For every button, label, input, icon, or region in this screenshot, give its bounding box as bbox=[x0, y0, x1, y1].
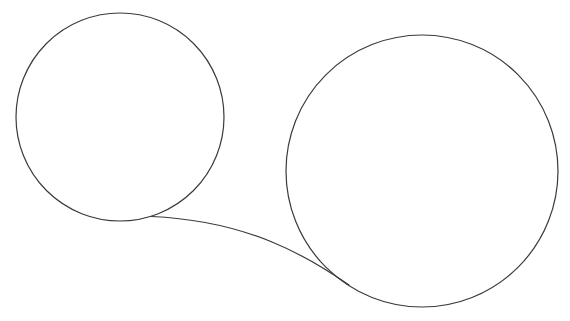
drawing-canvas: Two connected circles line drawing bbox=[0, 0, 570, 321]
canvas-background bbox=[0, 0, 570, 321]
figure-svg: Two connected circles line drawing bbox=[0, 0, 570, 321]
